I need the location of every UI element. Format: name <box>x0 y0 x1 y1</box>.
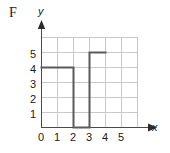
graph-figure: F y x 0 1 2 3 4 5 1 2 3 4 5 <box>0 0 170 153</box>
y-axis-arrowhead <box>38 20 45 29</box>
x-axis-arrowhead <box>148 124 157 132</box>
plot-area <box>0 0 170 153</box>
